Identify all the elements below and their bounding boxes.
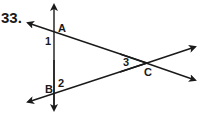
geometry-figure: 33. A 1 B 2 3 C (0, 0, 199, 113)
point-label-a: A (58, 23, 66, 34)
angle-label-1: 1 (45, 36, 51, 47)
line-ac-right (120, 54, 195, 80)
angle-label-3: 3 (123, 57, 129, 68)
lines-diagram (0, 0, 199, 113)
angle-label-2: 2 (58, 78, 64, 89)
line-bc-right (120, 47, 195, 72)
point-label-b: B (45, 84, 53, 95)
point-label-c: C (144, 67, 152, 78)
problem-number: 33. (1, 9, 22, 26)
